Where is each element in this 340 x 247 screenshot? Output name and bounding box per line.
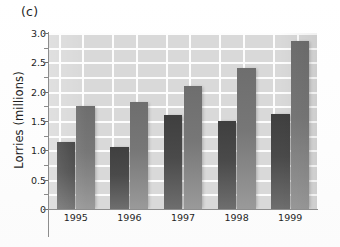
y-tick-minor: [44, 136, 48, 137]
y-tick-minor: [44, 77, 48, 78]
x-tick-label: 1999: [278, 212, 302, 223]
y-tick-major: [43, 209, 48, 210]
bar: [164, 115, 182, 209]
bar: [271, 114, 289, 209]
y-tick-minor: [44, 194, 48, 195]
x-axis-tick-labels: 19951996199719981999: [49, 212, 317, 232]
x-axis-line: [48, 209, 318, 210]
y-tick-major: [43, 121, 48, 122]
bar: [291, 41, 309, 209]
plot-area: [49, 33, 317, 209]
y-tick-minor: [44, 165, 48, 166]
y-tick-major: [43, 92, 48, 93]
bar-series-container: [49, 33, 317, 209]
x-tick-label: 1997: [171, 212, 195, 223]
y-tick-major: [43, 150, 48, 151]
y-tick-minor: [44, 106, 48, 107]
bar: [130, 102, 148, 209]
bar: [57, 142, 75, 209]
bar: [237, 68, 255, 209]
bar: [184, 86, 202, 209]
x-tick-label: 1996: [117, 212, 141, 223]
bar: [76, 106, 94, 209]
y-tick-major: [43, 62, 48, 63]
y-tick-minor: [44, 48, 48, 49]
y-tick-major: [43, 180, 48, 181]
y-tick-major: [43, 33, 48, 34]
bar: [218, 121, 236, 209]
x-tick-label: 1995: [64, 212, 88, 223]
bar: [110, 147, 128, 209]
figure-panel-c: (c) Lorries (millions) 00.51.01.52.02.53…: [0, 0, 340, 247]
x-tick-label: 1998: [225, 212, 249, 223]
